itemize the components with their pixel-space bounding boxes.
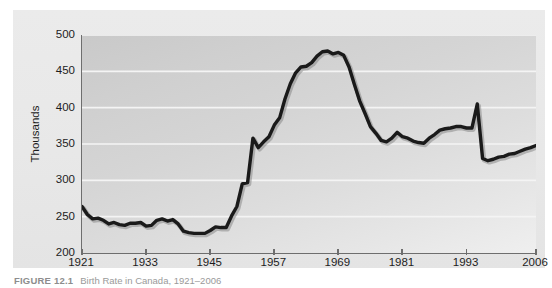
x-tick-label: 1921 bbox=[51, 256, 111, 269]
y-tick-label: 450 bbox=[41, 65, 75, 76]
y-tick-label: 300 bbox=[41, 174, 75, 185]
x-tick-mark bbox=[401, 249, 403, 255]
x-tick-mark bbox=[81, 249, 83, 255]
x-tick-mark bbox=[535, 249, 537, 255]
y-tick-label: 400 bbox=[41, 102, 75, 113]
x-axis-tick-labels: 19211933194519571969198119932006 bbox=[13, 256, 545, 276]
figure-root: Thousands 200250300350400450500 19211933… bbox=[0, 0, 552, 288]
figure-panel: Thousands 200250300350400450500 19211933… bbox=[13, 10, 545, 268]
caption-text: Birth Rate in Canada, 1921–2006 bbox=[80, 275, 221, 286]
y-tick-label: 350 bbox=[41, 138, 75, 149]
x-tick-label: 1981 bbox=[371, 256, 431, 269]
x-tick-mark bbox=[273, 249, 275, 255]
x-tick-label: 1957 bbox=[243, 256, 303, 269]
plot-area bbox=[81, 35, 536, 254]
series-line-births bbox=[82, 51, 536, 235]
y-axis-tick-labels: 200250300350400450500 bbox=[39, 10, 75, 268]
gridlines bbox=[82, 35, 536, 217]
plot-svg bbox=[82, 35, 536, 253]
series-line bbox=[82, 51, 536, 233]
x-tick-mark bbox=[209, 249, 211, 255]
figure-caption: FIGURE 12.1Birth Rate in Canada, 1921–20… bbox=[14, 275, 544, 287]
x-tick-mark bbox=[466, 249, 468, 255]
x-tick-label: 1969 bbox=[307, 256, 367, 269]
x-tick-mark bbox=[337, 249, 339, 255]
y-tick-label: 250 bbox=[41, 211, 75, 222]
x-tick-mark bbox=[145, 249, 147, 255]
y-tick-label: 500 bbox=[41, 29, 75, 40]
x-tick-label: 1933 bbox=[115, 256, 175, 269]
caption-label: FIGURE 12.1 bbox=[14, 275, 73, 286]
x-tick-label: 1993 bbox=[436, 256, 496, 269]
x-tick-label: 1945 bbox=[179, 256, 239, 269]
x-tick-label: 2006 bbox=[505, 256, 552, 269]
